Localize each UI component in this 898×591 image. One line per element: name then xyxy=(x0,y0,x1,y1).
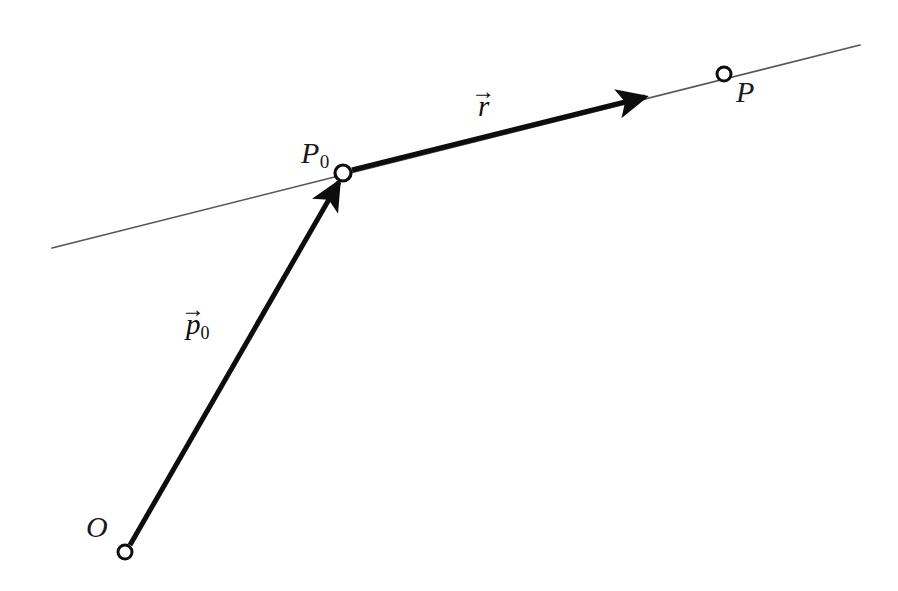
vector-p0-overarrow-icon: → xyxy=(181,298,205,322)
point-P-letter: P xyxy=(736,75,754,108)
vector-p0-subscript: 0 xyxy=(201,323,210,343)
point-P0-marker xyxy=(335,165,351,181)
point-P-label: P xyxy=(736,77,754,107)
vector-r-shaft xyxy=(352,97,645,170)
point-P0-subscript: 0 xyxy=(320,151,330,172)
vector-r-label: → r xyxy=(478,92,489,121)
vector-p0-label: → p 0 xyxy=(186,310,209,339)
vector-p0-glyph-stack: → p xyxy=(186,310,201,339)
point-P-marker xyxy=(717,67,731,81)
vector-p0-shaft xyxy=(130,182,339,545)
vector-r-overarrow-icon: → xyxy=(471,80,495,104)
diagram-svg xyxy=(0,0,898,591)
point-P0-letter: P xyxy=(301,136,319,169)
point-O-marker xyxy=(118,545,132,559)
vector-diagram-canvas: O P0 P → r → p 0 xyxy=(0,0,898,591)
point-O-label: O xyxy=(86,512,108,542)
point-O-letter: O xyxy=(86,510,108,543)
point-P0-label: P0 xyxy=(301,138,329,168)
vector-r-glyph-stack: → r xyxy=(478,92,489,121)
